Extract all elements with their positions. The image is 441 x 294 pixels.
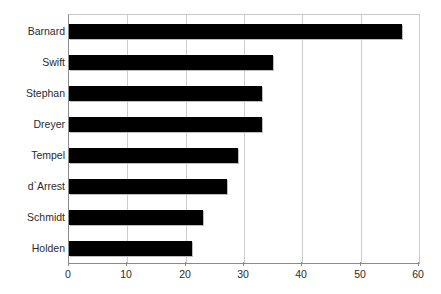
value-axis: 0102030405060 (68, 262, 419, 292)
bar (69, 24, 402, 39)
axis-tick-60 (418, 262, 419, 266)
axis-tick-label: 30 (223, 268, 263, 280)
category-label: Barnard (3, 25, 65, 37)
axis-tick-30 (243, 262, 244, 266)
bar (69, 86, 262, 101)
axis-tick-label: 40 (281, 268, 321, 280)
gridline-50 (361, 15, 362, 263)
plot-area (68, 14, 420, 264)
bar (69, 179, 227, 194)
category-axis-labels: BarnardSwiftStephanDreyerTempeld`ArrestS… (0, 14, 65, 262)
category-label: Dreyer (3, 118, 65, 130)
axis-tick-20 (185, 262, 186, 266)
gridline-20 (186, 15, 187, 263)
category-label: Tempel (3, 149, 65, 161)
category-label: Holden (3, 242, 65, 254)
bar (69, 55, 273, 70)
bar (69, 148, 238, 163)
axis-tick-label: 50 (340, 268, 380, 280)
category-label: Schmidt (3, 211, 65, 223)
category-label: Stephan (3, 87, 65, 99)
axis-tick-label: 0 (48, 268, 88, 280)
axis-tick-label: 20 (165, 268, 205, 280)
axis-tick-label: 10 (106, 268, 146, 280)
bar (69, 241, 192, 256)
gridline-30 (244, 15, 245, 263)
axis-tick-40 (301, 262, 302, 266)
axis-tick-label: 60 (398, 268, 438, 280)
gridline-10 (127, 15, 128, 263)
bar-chart: BarnardSwiftStephanDreyerTempeld`ArrestS… (0, 0, 441, 294)
axis-tick-10 (126, 262, 127, 266)
axis-tick-0 (68, 262, 69, 266)
axis-tick-50 (360, 262, 361, 266)
bar (69, 210, 203, 225)
category-label: Swift (3, 56, 65, 68)
gridline-60 (419, 15, 420, 263)
bar (69, 117, 262, 132)
category-label: d`Arrest (3, 180, 65, 192)
gridline-40 (302, 15, 303, 263)
